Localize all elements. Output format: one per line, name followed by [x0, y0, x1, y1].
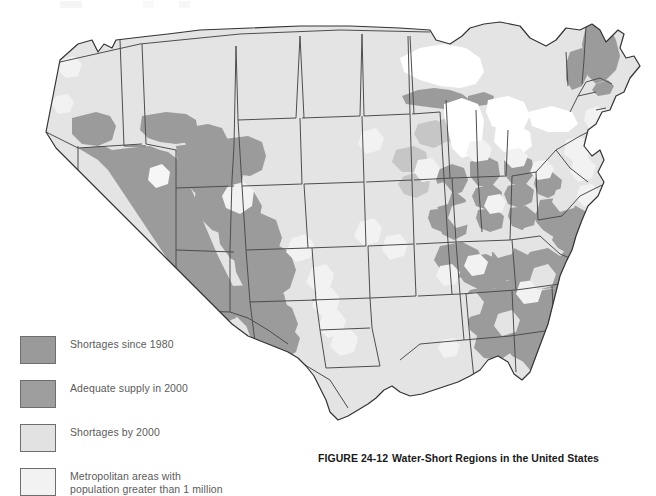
legend-swatch-adequate-supply-2000 — [20, 380, 56, 408]
legend-label: Shortages by 2000 — [70, 424, 160, 439]
legend-item: Shortages by 2000 — [20, 424, 280, 452]
legend-swatch-metro-areas — [20, 468, 56, 496]
region-florida-dark — [556, 348, 592, 424]
legend-swatch-shortages-by-2000 — [20, 424, 56, 452]
map-legend: Shortages since 1980 Adequate supply in … — [20, 336, 280, 496]
figure-title: Water-Short Regions in the United States — [392, 452, 599, 464]
legend-label: Metropolitan areas with population great… — [70, 468, 223, 495]
legend-label: Shortages since 1980 — [70, 336, 174, 351]
legend-item: Shortages since 1980 — [20, 336, 280, 364]
figure-caption: FIGURE 24-12Water-Short Regions in the U… — [318, 452, 599, 464]
figure-number: FIGURE 24-12 — [318, 452, 388, 464]
legend-swatch-shortages-since-1980 — [20, 336, 56, 364]
legend-item: Metropolitan areas with population great… — [20, 468, 280, 496]
legend-label: Adequate supply in 2000 — [70, 380, 188, 395]
legend-item: Adequate supply in 2000 — [20, 380, 280, 408]
